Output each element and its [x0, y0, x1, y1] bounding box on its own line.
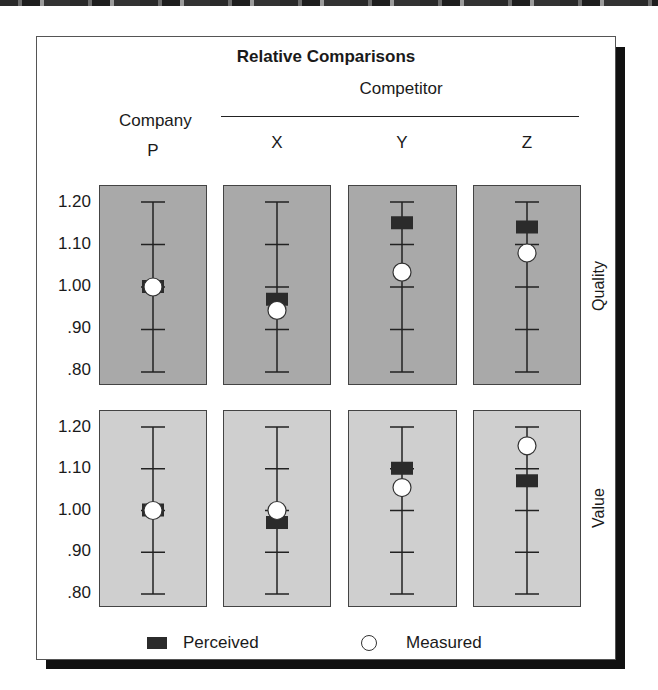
perceived-marker-value-z [516, 474, 538, 487]
perceived-marker-value-y [391, 462, 413, 475]
perceived-marker-quality-y [391, 216, 413, 229]
measured-marker-value-y [393, 479, 411, 497]
measured-marker-quality-p [144, 278, 162, 296]
perceived-marker-quality-z [516, 221, 538, 234]
top-decorative-strip [0, 0, 658, 6]
legend-measured-circle-icon [361, 635, 377, 651]
measured-marker-value-p [144, 502, 162, 520]
legend-measured-label: Measured [406, 633, 482, 653]
measured-marker-quality-z [518, 244, 536, 262]
row-label-quality: Quality [590, 246, 608, 326]
measured-marker-quality-x [268, 301, 286, 319]
measured-marker-value-z [518, 437, 536, 455]
chart-frame: Relative Comparisons Competitor Company … [36, 36, 616, 660]
measured-marker-value-x [268, 502, 286, 520]
legend-perceived-label: Perceived [183, 633, 259, 653]
measured-marker-quality-y [393, 263, 411, 281]
legend-perceived-swatch-icon [147, 637, 167, 649]
plot-layer [37, 37, 615, 659]
row-label-value: Value [590, 468, 608, 548]
